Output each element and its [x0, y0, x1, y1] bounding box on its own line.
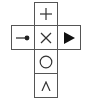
pin-line-icon — [15, 34, 31, 42]
play-triangle-icon — [63, 32, 75, 44]
cross-icon — [40, 32, 52, 44]
plus-icon — [39, 7, 53, 21]
cell-circle — [34, 49, 58, 74]
cell-pin-line — [11, 25, 35, 50]
cell-cross — [34, 25, 58, 50]
caret-up-icon — [41, 81, 51, 91]
cell-caret-up — [34, 73, 58, 98]
circle-icon — [39, 55, 53, 69]
cell-plus — [34, 2, 58, 26]
cell-play — [57, 25, 81, 50]
